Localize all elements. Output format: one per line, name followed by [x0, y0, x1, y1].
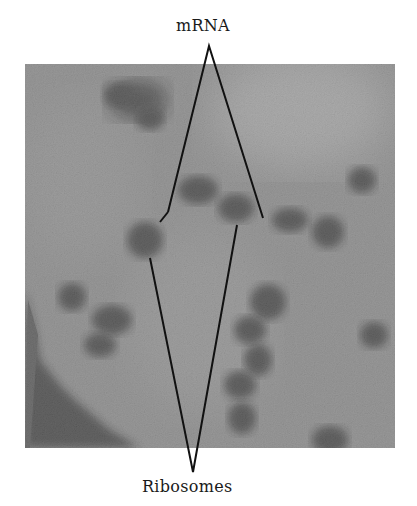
micrograph-figure: [0, 0, 417, 506]
